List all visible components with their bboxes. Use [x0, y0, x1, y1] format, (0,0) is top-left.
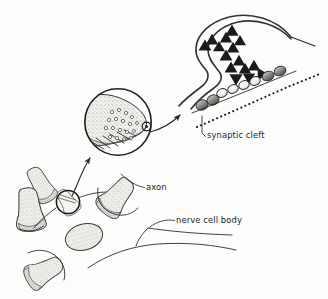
neurotransmitter-triangle — [233, 55, 245, 66]
nerve-cell-overview-panel — [13, 163, 236, 293]
leader-line-nerve-cell-body — [150, 220, 175, 227]
synaptic-vesicle — [108, 135, 111, 138]
synapse-detail-panel — [179, 15, 322, 127]
synaptic-vesicle — [104, 126, 107, 129]
synaptic-vesicle — [117, 108, 120, 111]
synaptic-vesicle — [107, 118, 110, 121]
neurotransmitter-triangle — [206, 34, 218, 45]
synaptic-vesicle — [110, 110, 113, 113]
label-nerve-cell-body: nerve cell body — [176, 215, 242, 225]
diagram-canvas: synaptic cleftaxonnerve cell body — [0, 0, 328, 299]
magnified-axon-neck — [85, 80, 100, 96]
synaptic-vesicle — [115, 136, 118, 139]
synaptic-vesicle — [125, 130, 128, 133]
leader-line-synaptic-cleft — [202, 116, 206, 137]
arrow-lens-to-detail — [150, 115, 180, 132]
receptor-bead — [226, 83, 239, 95]
cell-membrane-sweep-upper — [148, 228, 232, 235]
synaptic-vesicle — [123, 138, 126, 141]
presynaptic-axon-trail — [291, 37, 315, 46]
cell-membrane-sweep-lower — [88, 243, 236, 268]
synapse-diagram-figure: synaptic cleftaxonnerve cell body Synaps… — [0, 0, 328, 299]
synaptic-vesicle — [111, 126, 114, 129]
magnified-terminal-inset — [83, 80, 152, 156]
synaptic-vesicle — [118, 128, 121, 131]
neurotransmitter-triangle — [234, 35, 246, 45]
synaptic-vesicle — [130, 137, 133, 140]
synaptic-vesicle — [136, 122, 139, 125]
synaptic-vesicle — [133, 130, 136, 133]
bouton-bottom-left — [21, 251, 68, 293]
synaptic-vesicle — [114, 117, 117, 120]
synaptic-vesicle — [124, 111, 127, 114]
synaptic-vesicle — [130, 115, 133, 118]
synaptic-vesicle — [121, 119, 124, 122]
synaptic-vesicle — [128, 122, 131, 125]
synapse-marker-dot — [145, 125, 148, 128]
cell-membrane-branch — [136, 228, 148, 246]
label-synaptic-cleft: synaptic cleft — [207, 130, 265, 140]
label-axon: axon — [146, 182, 167, 192]
nerve-cell-body-soma — [62, 219, 106, 254]
arrow-overview-to-lens — [72, 158, 90, 196]
